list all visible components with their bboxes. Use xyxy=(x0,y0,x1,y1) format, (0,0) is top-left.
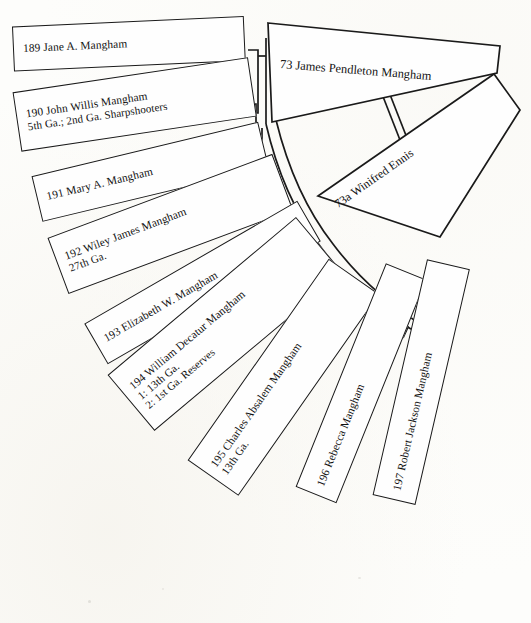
node-73a-shape xyxy=(318,74,520,237)
node-189-label: 189 Jane A. Mangham xyxy=(23,32,244,55)
node-73-label: 73 James Pendleton Mangham xyxy=(279,57,431,84)
scan-speck xyxy=(162,588,164,590)
bracket-73-73a xyxy=(382,92,407,140)
scan-speck xyxy=(358,577,361,579)
scan-speck xyxy=(88,600,91,603)
fan-chart-canvas: 73 James Pendleton Mangham 73a Winifred … xyxy=(0,0,531,623)
node-73a-label: 73a Winifred Ennis xyxy=(332,146,417,212)
